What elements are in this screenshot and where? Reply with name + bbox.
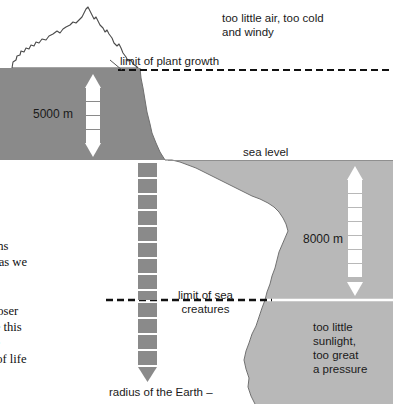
radius-arrow-segment xyxy=(138,163,157,177)
land-mass xyxy=(0,68,165,160)
ocean-arrow-segment xyxy=(348,236,362,249)
caption-deep-ocean: too little sunlight, too great a pressur… xyxy=(313,320,367,376)
label-limit-of-sea-creatures: limit of seacreatures xyxy=(178,288,233,316)
radius-arrow-segment xyxy=(138,335,157,349)
ocean-arrow-segment xyxy=(348,264,362,277)
sea-creatures-line-1: limit of sea xyxy=(178,289,233,301)
earth-radius-arrow xyxy=(138,163,157,382)
label-ocean-depth: 8000 m xyxy=(303,232,343,247)
radius-arrow-segment xyxy=(138,227,157,241)
ocean-arrow-segment xyxy=(348,180,362,193)
ocean-arrow-segment xyxy=(348,194,362,207)
sea-creatures-line-2: creatures xyxy=(178,302,233,316)
radius-arrow-segment xyxy=(138,195,157,209)
radius-arrow-segment xyxy=(138,351,157,365)
caption-atmosphere: too little air, too cold and windy xyxy=(222,11,324,39)
ocean-arrow-segment xyxy=(348,222,362,235)
body-text-column: of the oceans ial for life, as we state … xyxy=(0,238,112,367)
ocean-depth-arrow xyxy=(347,166,363,296)
radius-arrow-segment xyxy=(138,319,157,333)
label-limit-of-plant-growth: limit of plant growth xyxy=(120,54,219,68)
mountain-arrow-segment xyxy=(86,88,100,101)
mountain-arrow-segment xyxy=(86,130,100,143)
radius-arrow-head-down xyxy=(138,367,157,382)
radius-arrow-segment xyxy=(138,179,157,193)
radius-arrow-segment xyxy=(138,243,157,257)
figure-page: too little air, too cold and windy limit… xyxy=(0,0,393,404)
radius-arrow-segment xyxy=(138,303,157,317)
mountain-arrow-segment xyxy=(86,102,100,115)
radius-arrow-segment xyxy=(138,275,157,289)
radius-arrow-segment xyxy=(138,259,157,273)
mountain-arrow-segment xyxy=(86,116,100,129)
label-sea-level: sea level xyxy=(243,145,288,159)
ocean-arrow-segment xyxy=(348,208,362,221)
radius-arrow-segment xyxy=(138,291,157,300)
ocean-arrow-segment xyxy=(348,250,362,263)
label-radius-of-the-earth: radius of the Earth – xyxy=(109,385,213,399)
radius-arrow-segment xyxy=(138,211,157,225)
label-mountain-height: 5000 m xyxy=(33,107,73,122)
